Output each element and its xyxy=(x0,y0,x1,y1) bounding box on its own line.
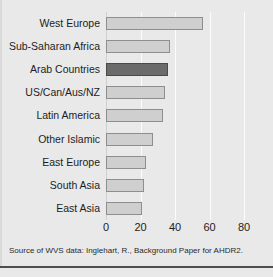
figure-left-edge xyxy=(0,0,2,268)
x-tick-label: 20 xyxy=(134,221,146,233)
bar-arab-countries xyxy=(106,63,168,76)
bar-sub-saharan-africa xyxy=(106,40,170,53)
plot-area: West EuropeSub-Saharan AfricaArab Countr… xyxy=(106,12,251,220)
bar-row: US/Can/Aus/NZ xyxy=(106,81,251,104)
bar-row: East Europe xyxy=(106,151,251,174)
bar-east-asia xyxy=(106,202,142,215)
category-label: Other Islamic xyxy=(38,128,100,151)
bar-us-can-aus-nz xyxy=(106,86,165,99)
bar-latin-america xyxy=(106,109,163,122)
bar-row: Latin America xyxy=(106,104,251,127)
x-tick-label: 60 xyxy=(203,221,215,233)
source-note: Source of WVS data: Inglehart, R., Backg… xyxy=(9,246,243,255)
bar-row: South Asia xyxy=(106,174,251,197)
category-label: East Europe xyxy=(42,151,100,174)
x-tick-label: 0 xyxy=(103,221,109,233)
bar-west-europe xyxy=(106,17,203,30)
category-label: West Europe xyxy=(39,12,100,35)
chart-figure: West EuropeSub-Saharan AfricaArab Countr… xyxy=(0,0,273,277)
bar-south-asia xyxy=(106,179,144,192)
bar-row: Arab Countries xyxy=(106,58,251,81)
category-label: South Asia xyxy=(50,174,100,197)
category-label: Sub-Saharan Africa xyxy=(9,35,100,58)
x-axis: 020406080 xyxy=(106,221,251,237)
bar-row: West Europe xyxy=(106,12,251,35)
category-label: US/Can/Aus/NZ xyxy=(25,81,100,104)
category-label: Arab Countries xyxy=(30,58,100,81)
x-tick-label: 80 xyxy=(238,221,250,233)
figure-bottom-rule xyxy=(0,266,273,268)
bar-row: Sub-Saharan Africa xyxy=(106,35,251,58)
bar-row: Other Islamic xyxy=(106,128,251,151)
category-label: East Asia xyxy=(56,197,100,220)
category-label: Latin America xyxy=(36,104,100,127)
x-tick-label: 40 xyxy=(169,221,181,233)
bar-row: East Asia xyxy=(106,197,251,220)
bar-other-islamic xyxy=(106,133,153,146)
bar-east-europe xyxy=(106,156,146,169)
